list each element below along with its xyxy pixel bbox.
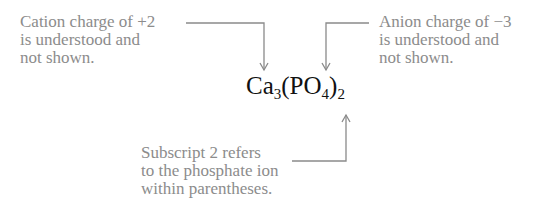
anion-connector-line xyxy=(326,23,369,70)
cation-connector-line xyxy=(186,23,264,70)
connector-lines xyxy=(0,0,560,218)
subscript-connector-line xyxy=(292,115,346,161)
